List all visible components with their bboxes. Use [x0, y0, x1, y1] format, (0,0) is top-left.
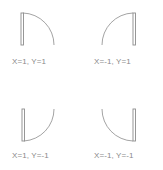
door-swing-arc — [102, 13, 133, 45]
door-cell-xneg1-yneg1: X=-1, Y=-1 — [81, 85, 162, 170]
door-leaf — [133, 13, 136, 45]
door-label: X=1, Y=-1 — [12, 151, 49, 160]
door-leaf — [22, 109, 25, 141]
door-cell-x1-yneg1: X=1, Y=-1 — [0, 85, 81, 170]
door-cell-xneg1-y1: X=-1, Y=1 — [81, 0, 162, 85]
door-label: X=1, Y=1 — [12, 57, 46, 66]
door-swing-arc — [24, 109, 54, 141]
door-label: X=-1, Y=1 — [94, 57, 131, 66]
door-label: X=-1, Y=-1 — [94, 151, 134, 160]
door-swing-icon — [81, 0, 163, 85]
door-cell-x1-y1: X=1, Y=1 — [0, 0, 81, 85]
door-swing-arc — [102, 109, 133, 141]
door-leaf — [21, 13, 24, 45]
door-swing-icon — [0, 0, 81, 85]
door-swing-arc — [23, 13, 54, 45]
door-leaf — [133, 109, 136, 141]
